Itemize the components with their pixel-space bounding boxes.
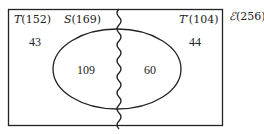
region-s-and-t-prime-value: 60: [144, 64, 156, 76]
set-t-label: T(152): [14, 14, 51, 25]
set-s-label: S(169): [64, 14, 101, 25]
set-t-prime-name: T′: [179, 13, 189, 26]
set-t-prime-count: (104): [189, 13, 219, 26]
region-s-and-t-value: 109: [77, 64, 95, 76]
universal-symbol: ℰ: [229, 10, 236, 23]
region-t-prime-only-value: 44: [189, 36, 201, 48]
set-s-count: (169): [72, 13, 102, 26]
set-s-name: S: [64, 13, 72, 26]
universal-set-label: ℰ(256): [229, 11, 264, 22]
set-s-ellipse: [53, 29, 181, 109]
universal-count: (256): [236, 10, 264, 23]
region-t-only-value: 43: [29, 36, 41, 48]
set-t-count: (152): [21, 13, 51, 26]
set-t-prime-label: T′(104): [179, 14, 218, 25]
universal-set-box: [9, 10, 223, 126]
t-t-prime-divider-wavy-line: [117, 9, 121, 129]
